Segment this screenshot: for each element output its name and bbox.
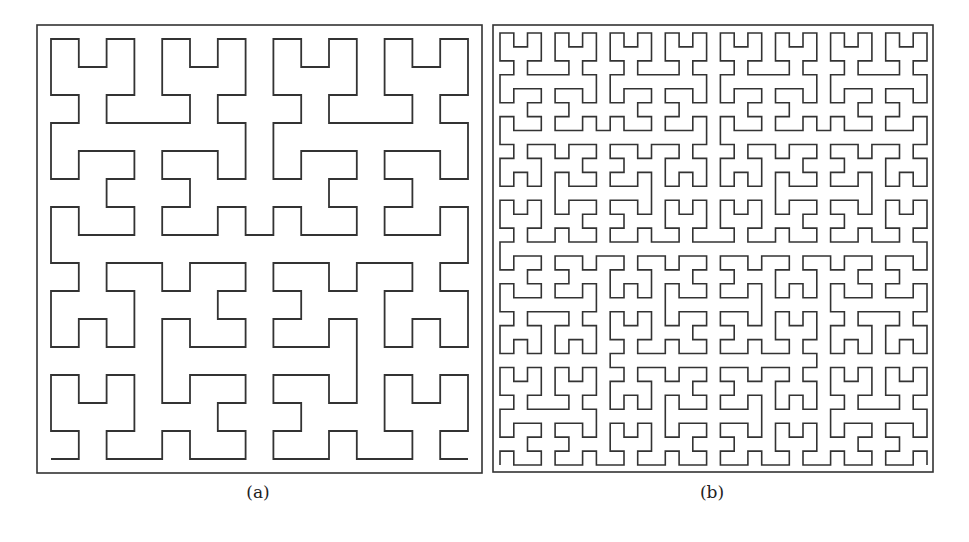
panel-a-hilbert-order-4: [37, 25, 482, 473]
panel-b-frame: [493, 25, 933, 472]
caption-a: (a): [246, 482, 269, 502]
panel-a-frame: [37, 25, 482, 473]
caption-b: (b): [700, 482, 724, 502]
hilbert-curve-order-4: [51, 39, 468, 459]
panel-b-hilbert-order-5: [493, 25, 933, 472]
hilbert-curve-order-5: [500, 33, 927, 465]
figure-canvas: [0, 0, 969, 542]
